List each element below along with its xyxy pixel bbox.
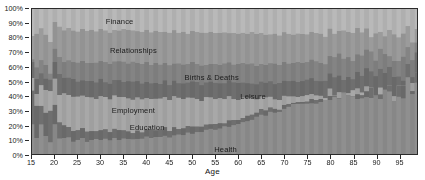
x-tick-label: 70 [280,159,288,167]
y-tick-mark [25,23,29,24]
band-label: Relationships [110,46,157,55]
x-tick-label: 75 [303,159,311,167]
x-tick-label: 55 [211,159,219,167]
y-tick-mark [25,126,29,127]
x-tick-label: 90 [373,159,381,167]
y-tick-mark [25,96,29,97]
x-axis-title: Age [0,167,425,176]
y-tick-label: 40% [9,93,23,100]
y-tick-mark [25,67,29,68]
band-label: Leisure [240,91,266,100]
band-label: Education [130,122,165,131]
band-label: Finance [106,16,134,25]
x-tick-label: 50 [188,159,196,167]
x-tick-label: 20 [50,159,58,167]
y-tick-mark [25,8,29,9]
y-tick-mark [25,140,29,141]
plot-area: FinanceRelationshipsBirths & DeathsLeisu… [31,8,418,155]
y-tick-label: 60% [9,63,23,70]
y-tick-label: 30% [9,107,23,114]
y-axis: 0%10%20%30%40%50%60%70%80%90%100% [0,0,31,163]
y-tick-label: 90% [9,19,23,26]
stacked-area-chart: 0%10%20%30%40%50%60%70%80%90%100% Financ… [0,0,425,180]
y-tick-mark [25,155,29,156]
x-tick-label: 40 [142,159,150,167]
x-tick-label: 15 [27,159,35,167]
x-tick-label: 30 [96,159,104,167]
x-tick-label: 35 [119,159,127,167]
y-tick-mark [25,111,29,112]
band-label: Health [214,144,237,153]
band-label: Births & Deaths [185,72,239,81]
x-tick-label: 85 [350,159,358,167]
y-tick-mark [25,82,29,83]
x-tick-label: 45 [165,159,173,167]
y-tick-label: 0% [13,152,23,159]
x-tick-label: 80 [326,159,334,167]
y-tick-label: 100% [5,5,23,12]
y-tick-mark [25,52,29,53]
y-tick-mark [25,37,29,38]
plot-canvas [32,9,417,154]
x-tick-label: 95 [396,159,404,167]
y-tick-label: 70% [9,49,23,56]
band-label: Employment [112,106,155,115]
x-tick-label: 25 [73,159,81,167]
x-tick-label: 60 [234,159,242,167]
y-tick-label: 20% [9,122,23,129]
y-tick-label: 50% [9,78,23,85]
x-tick-label: 65 [257,159,265,167]
y-tick-label: 10% [9,137,23,144]
y-tick-label: 80% [9,34,23,41]
